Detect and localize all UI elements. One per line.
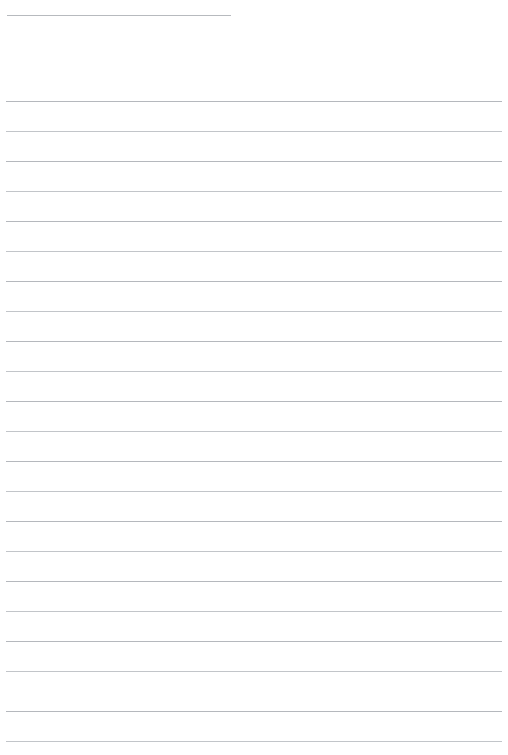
lined-paper-page — [0, 0, 508, 755]
writing-line-zone[interactable] — [6, 131, 502, 161]
writing-line-zone[interactable] — [6, 641, 502, 671]
writing-line-zone[interactable] — [6, 101, 502, 131]
writing-line-zone[interactable] — [6, 401, 502, 431]
writing-line-zone[interactable] — [6, 161, 502, 191]
writing-line-zone[interactable] — [6, 71, 502, 101]
writing-line-zone[interactable] — [6, 191, 502, 221]
writing-line-zone[interactable] — [6, 341, 502, 371]
writing-line-zone[interactable] — [6, 491, 502, 521]
writing-line-zone[interactable] — [6, 611, 502, 641]
header-name-rule — [7, 15, 231, 16]
writing-line-zone[interactable] — [6, 431, 502, 461]
writing-line-zone[interactable] — [6, 581, 502, 611]
writing-line-zone[interactable] — [6, 311, 502, 341]
writing-line-zone[interactable] — [6, 711, 502, 741]
writing-line-zone[interactable] — [6, 371, 502, 401]
writing-line-zone[interactable] — [6, 251, 502, 281]
writing-line-zone[interactable] — [6, 281, 502, 311]
writing-line-zone[interactable] — [6, 671, 502, 711]
ruled-line — [6, 741, 502, 742]
writing-line-zone[interactable] — [6, 551, 502, 581]
writing-line-zone[interactable] — [6, 521, 502, 551]
writing-line-zone[interactable] — [6, 461, 502, 491]
writing-line-zone[interactable] — [6, 221, 502, 251]
